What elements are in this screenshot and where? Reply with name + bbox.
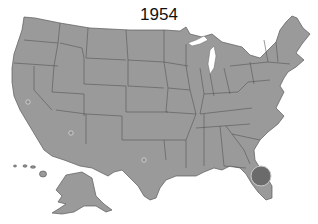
hawaii-island: [40, 171, 47, 177]
marker-california[interactable]: [26, 100, 30, 104]
hawaii-island: [31, 166, 36, 168]
marker-arizona[interactable]: [69, 131, 73, 135]
hawaii-island: [14, 165, 17, 167]
marker-florida[interactable]: [251, 166, 271, 186]
hawaii-island: [23, 165, 27, 167]
marker-texas[interactable]: [142, 158, 146, 162]
us-map: [0, 0, 318, 224]
alaska: [52, 172, 112, 214]
